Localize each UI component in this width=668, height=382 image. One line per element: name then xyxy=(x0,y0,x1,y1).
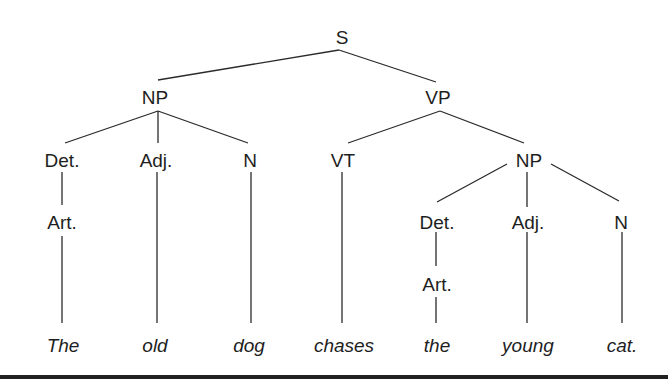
node-art-object: Art. xyxy=(422,274,452,295)
edge-np-det xyxy=(65,111,158,143)
word-old: old xyxy=(142,335,169,356)
node-s: S xyxy=(336,27,349,48)
tree-words: The old dog chases the young cat. xyxy=(47,335,638,356)
node-vp: VP xyxy=(425,87,450,108)
edge-s-vp xyxy=(339,50,436,82)
word-young: young xyxy=(500,335,554,356)
word-the-2: the xyxy=(424,335,450,356)
node-n-object: N xyxy=(614,212,628,233)
bottom-rule xyxy=(0,375,668,379)
node-np-subject: NP xyxy=(142,87,168,108)
node-adj-object: Adj. xyxy=(512,212,545,233)
word-cat: cat. xyxy=(607,335,638,356)
node-n-subject: N xyxy=(243,150,257,171)
node-np-object: NP xyxy=(516,150,542,171)
syntax-tree-diagram: S NP VP Det. Adj. N VT NP Art. Det. Adj.… xyxy=(0,0,668,382)
node-adj-subject: Adj. xyxy=(140,150,173,171)
edge-vp-np xyxy=(440,111,524,143)
node-art-subject: Art. xyxy=(47,212,77,233)
word-chases: chases xyxy=(314,335,375,356)
edge-np2-det xyxy=(437,164,507,202)
word-dog: dog xyxy=(233,335,265,356)
edge-np-n xyxy=(158,111,248,143)
edge-vp-vt xyxy=(348,111,440,143)
node-vt: VT xyxy=(331,150,356,171)
edge-np2-n xyxy=(551,164,619,201)
tree-node-labels: S NP VP Det. Adj. N VT NP Art. Det. Adj.… xyxy=(45,27,628,295)
node-det-subject: Det. xyxy=(45,150,80,171)
node-det-object: Det. xyxy=(420,212,455,233)
edge-s-np xyxy=(158,50,339,80)
word-the: The xyxy=(47,335,80,356)
